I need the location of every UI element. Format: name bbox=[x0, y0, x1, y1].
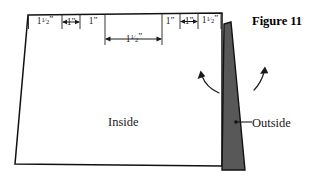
dimension-arrowheads-top bbox=[62, 19, 198, 24]
arrowhead-left bbox=[105, 37, 111, 42]
dimension-label-3: 1” bbox=[89, 15, 98, 26]
rotate-inside-arrowhead bbox=[198, 71, 206, 80]
rotate-outside-arrow-curve bbox=[254, 72, 264, 90]
card-outline bbox=[15, 13, 222, 166]
dimension-label-1: 11⁄2” bbox=[37, 14, 53, 27]
inside-label: Inside bbox=[108, 115, 139, 129]
dimension-label-5: 1” bbox=[166, 15, 175, 26]
diagram-canvas: 11⁄2” 1” 1” 1” 1” 11⁄2” 11⁄2” Inside Out… bbox=[0, 0, 317, 180]
arrowhead-right bbox=[157, 37, 163, 42]
dimension-label-4: 11⁄2” bbox=[126, 31, 142, 44]
outside-leader bbox=[234, 120, 252, 124]
rotate-inside-arrow-curve bbox=[202, 76, 219, 93]
dimension-label-2: 1” bbox=[67, 16, 76, 27]
outside-wedge-shape bbox=[222, 22, 245, 170]
arrowhead-right bbox=[193, 19, 198, 24]
rotate-outside-arrowhead bbox=[260, 67, 268, 74]
arrowhead-right bbox=[75, 20, 80, 25]
figure-title: Figure 11 bbox=[252, 14, 302, 28]
dimension-label-6: 1” bbox=[185, 15, 194, 26]
outside-label: Outside bbox=[252, 116, 291, 130]
rotate-outside-arrow bbox=[254, 67, 268, 91]
rotate-inside-arrow bbox=[198, 71, 219, 94]
dimension-label-7: 11⁄2” bbox=[202, 13, 218, 26]
figure-11-diagram: 11⁄2” 1” 1” 1” 1” 11⁄2” 11⁄2” Inside Out… bbox=[0, 0, 317, 180]
